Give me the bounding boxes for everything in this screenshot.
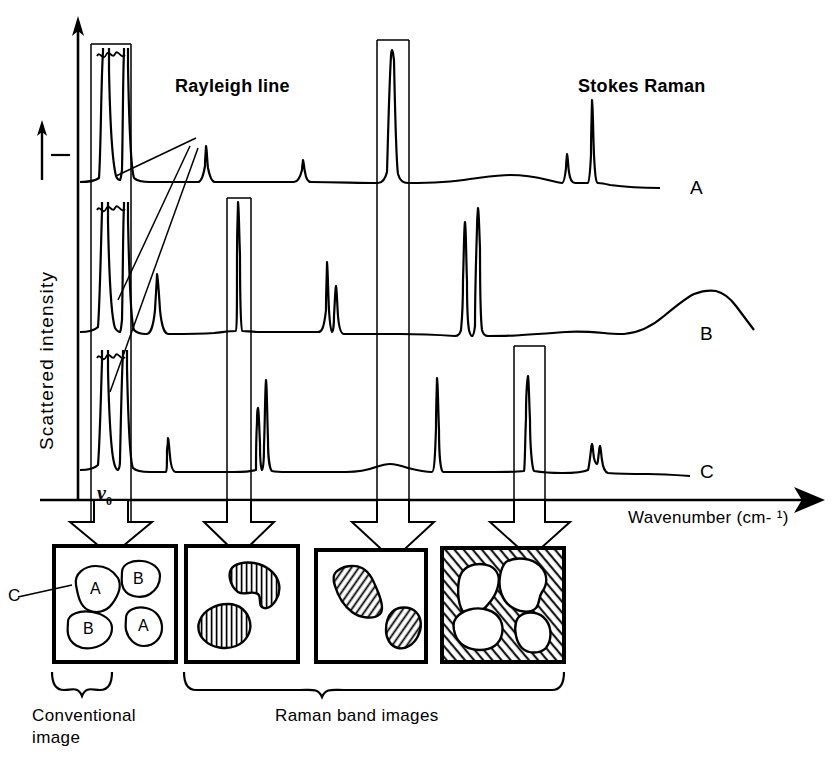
image-panel-band-3[interactable] [316,550,426,662]
caption-conventional-line1: Conventional [32,706,136,726]
nu-subscript: 0 [106,494,112,508]
trace-label-b: B [700,323,713,344]
grain-highlight-2 [198,604,250,648]
trace-label-a: A [690,177,703,198]
brace-conventional [52,672,112,696]
spectrum-trace-b [80,202,754,336]
grain-void-2 [499,559,546,612]
break-squiggle-a [97,52,125,57]
trace-label-c: C [700,461,714,482]
stokes-raman-annotation: Stokes Raman [578,76,706,97]
grain-label-b-1: B [133,570,144,588]
nu-zero-label: ν0 [97,482,112,509]
grain-label-a-1: A [90,580,101,598]
axis-y-direction-arrow [37,120,70,180]
spectrum-trace-a [80,48,660,188]
image-panel-conventional[interactable] [18,546,176,662]
conventional-matrix-label-c: C [8,586,20,606]
figure-canvas: A B C [0,0,840,766]
raman-imaging-figure: A B C [0,0,840,766]
x-axis-label-text: Wavenumber (cm- ¹) [628,508,789,527]
rayleigh-line-annotation: Rayleigh line [175,76,290,97]
nu-symbol: ν [97,482,106,504]
y-axis-label: Scattered intensity [36,271,58,450]
spectrum-trace-c [80,350,690,476]
x-axis-label: Wavenumber (cm- ¹) [628,508,789,528]
axis-y [72,16,84,500]
image-panel-band-2[interactable] [186,546,298,662]
grain-void-3 [454,608,503,650]
grain-label-a-2: A [138,617,149,635]
caption-raman-band-images: Raman band images [275,706,439,726]
brace-raman-band [184,672,564,697]
image-panel-band-4[interactable] [442,548,564,662]
grain-label-b-2: B [83,620,94,638]
caption-conventional-line2: image [32,728,80,748]
grain-void-4 [515,613,550,653]
